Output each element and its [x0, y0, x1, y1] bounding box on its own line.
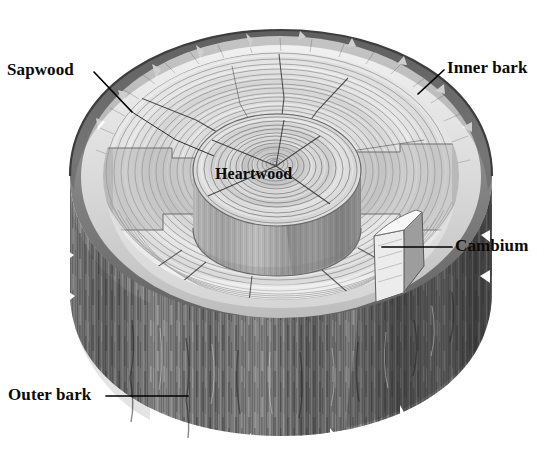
- label-cambium: Cambium: [455, 236, 528, 256]
- label-inner-bark: Inner bark: [447, 58, 528, 78]
- label-sapwood: Sapwood: [7, 60, 74, 80]
- label-outer-bark: Outer bark: [8, 385, 91, 405]
- label-heartwood: Heartwood: [215, 165, 292, 183]
- heartwood-region: [193, 114, 361, 276]
- figure-canvas: Sapwood Inner bark Cambium Outer bark He…: [0, 0, 557, 466]
